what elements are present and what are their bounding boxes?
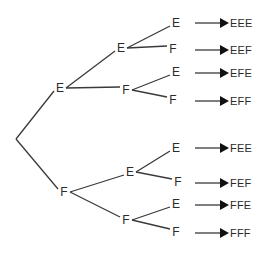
node-label-l3-fef: F bbox=[174, 176, 181, 188]
node-label-l3-ffe: E bbox=[172, 198, 180, 210]
branch-line bbox=[70, 175, 124, 192]
arrow-head-icon bbox=[220, 200, 229, 210]
arrow-head-icon bbox=[220, 68, 229, 78]
branch-line bbox=[70, 192, 120, 217]
arrow-head-icon bbox=[220, 45, 229, 55]
arrow-head-icon bbox=[220, 228, 229, 238]
branch-line bbox=[66, 87, 120, 88]
outcome-label: EFF bbox=[230, 96, 251, 107]
branch-line bbox=[127, 46, 167, 48]
node-label-l3-fee: E bbox=[172, 142, 180, 154]
node-label-l2-ee: E bbox=[117, 42, 125, 54]
outcome-label: EEE bbox=[230, 18, 253, 29]
branch-line bbox=[16, 91, 54, 139]
node-label-l2-ef: F bbox=[122, 84, 129, 96]
outcome-label: EEF bbox=[230, 45, 252, 56]
arrow-head-icon bbox=[220, 18, 229, 28]
node-label-l1-f: F bbox=[60, 186, 67, 198]
branch-line bbox=[136, 172, 172, 179]
branch-line bbox=[132, 220, 170, 229]
node-label-l1-e: E bbox=[56, 82, 64, 94]
arrow-head-icon bbox=[220, 178, 229, 188]
branch-line bbox=[132, 90, 167, 97]
outcome-label: EFE bbox=[230, 68, 252, 79]
branch-line bbox=[136, 151, 170, 172]
node-label-l2-ff: F bbox=[122, 214, 129, 226]
outcome-label: FEF bbox=[230, 178, 251, 189]
outcome-label: FEE bbox=[230, 143, 252, 154]
tree-lines bbox=[0, 0, 265, 253]
arrow-head-icon bbox=[220, 143, 229, 153]
node-label-l3-eee: E bbox=[172, 17, 180, 29]
node-label-l3-eff: F bbox=[169, 94, 176, 106]
node-label-l3-fff: F bbox=[172, 226, 179, 238]
outcome-label: FFE bbox=[230, 200, 251, 211]
branch-line bbox=[132, 75, 170, 90]
branch-line bbox=[132, 207, 170, 220]
branch-line bbox=[127, 26, 170, 48]
arrow-head-icon bbox=[220, 96, 229, 106]
node-label-l3-efe: E bbox=[172, 66, 180, 78]
node-label-l2-fe: E bbox=[126, 166, 134, 178]
branch-line bbox=[16, 139, 58, 189]
outcome-label: FFF bbox=[230, 228, 251, 239]
node-label-l3-eef: F bbox=[169, 43, 176, 55]
branch-line bbox=[66, 51, 115, 88]
